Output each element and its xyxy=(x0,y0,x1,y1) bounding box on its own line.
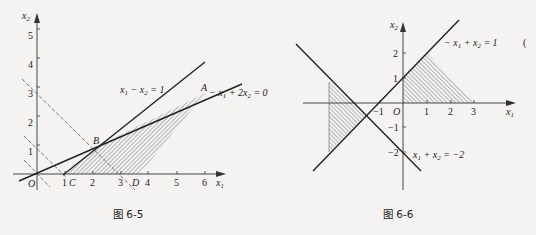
svg-text:1: 1 xyxy=(62,177,67,188)
equation-label-x1-minus-x2: x1 − x2 = 1 xyxy=(119,84,164,97)
svg-text:−1: −1 xyxy=(373,106,384,117)
origin-label: O xyxy=(393,106,400,117)
svg-text:−2: −2 xyxy=(388,147,399,158)
origin-label: O xyxy=(28,178,35,189)
point-a-label: A xyxy=(200,82,208,93)
svg-text:5: 5 xyxy=(28,30,33,41)
y-tick-labels: 1 2 3 4 5 xyxy=(28,30,33,157)
figure-6-5: 1 2 3 4 5 6 1 2 3 4 5 x2 x1 O A B C D x1… xyxy=(13,10,268,220)
figure-caption: 图 6-5 xyxy=(113,208,144,220)
svg-text:2: 2 xyxy=(448,106,453,117)
svg-text:1: 1 xyxy=(393,73,398,84)
svg-text:4: 4 xyxy=(145,177,150,188)
point-c-label: C xyxy=(69,177,76,188)
svg-text:6: 6 xyxy=(202,177,207,188)
svg-text:2: 2 xyxy=(90,177,95,188)
svg-text:3: 3 xyxy=(28,88,33,99)
equation-label-neg-x1-plus-2x2: − x1 + 2x2 = 0 xyxy=(209,87,268,100)
y-axis-label: x2 xyxy=(21,10,30,23)
svg-text:2: 2 xyxy=(393,48,398,59)
figure-6-6: −1 1 2 3 2 1 −1 −2 x2 x1 O − x1 + x2 = 1… xyxy=(296,19,527,220)
x-axis-label: x1 xyxy=(215,177,224,190)
y-axis-arrow-icon xyxy=(400,22,406,32)
feasible-region-left xyxy=(329,82,366,152)
y-axis-label: x2 xyxy=(389,19,398,32)
point-d-label: D xyxy=(131,177,140,188)
point-b-label: B xyxy=(93,135,99,146)
feasible-region-right xyxy=(403,53,474,103)
diagrams-canvas: 1 2 3 4 5 6 1 2 3 4 5 x2 x1 O A B C D x1… xyxy=(0,0,536,235)
svg-text:1: 1 xyxy=(28,146,33,157)
svg-text:3: 3 xyxy=(471,106,476,117)
x-axis-label: x1 xyxy=(505,106,514,119)
feasible-region xyxy=(65,93,205,174)
svg-text:1: 1 xyxy=(424,106,429,117)
equation-label-x1-plus-x2: x1 + x2 = −2 xyxy=(412,149,464,162)
line-x1-plus-x2-eq-neg-2 xyxy=(296,44,421,171)
y-axis-arrow-icon xyxy=(34,13,40,23)
svg-text:5: 5 xyxy=(174,177,179,188)
figure-caption: 图 6-6 xyxy=(383,208,414,220)
svg-text:3: 3 xyxy=(118,177,123,188)
svg-text:−1: −1 xyxy=(388,122,399,133)
equation-label-neg-x1-plus-x2: − x1 + x2 = 1 xyxy=(444,37,498,50)
x-tick-labels: −1 1 2 3 xyxy=(373,106,476,117)
stray-mark: ( xyxy=(523,37,527,49)
svg-text:2: 2 xyxy=(28,117,33,128)
svg-text:4: 4 xyxy=(28,59,33,70)
